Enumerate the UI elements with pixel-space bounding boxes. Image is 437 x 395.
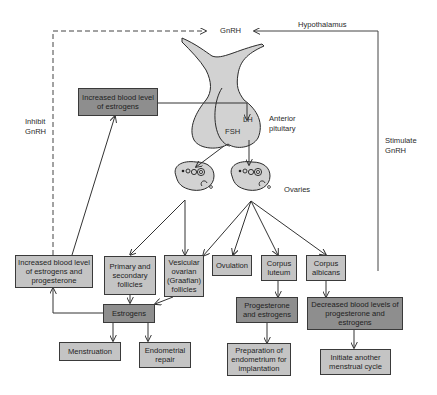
box-text: Increased blood level of estrogens and p… — [18, 258, 90, 285]
ovaries-label: Ovaries — [284, 185, 310, 194]
box-initiate-cycle: Initiate another menstrual cycle — [320, 349, 391, 375]
box-vesicular-follicles: Vesicular ovarian (Graafian) follicles — [164, 255, 204, 297]
pituitary-gland-icon — [182, 38, 264, 148]
box-decreased-levels: Decreased blood levels of progesterone a… — [307, 297, 403, 330]
inhibit-label-1: Inhibit — [25, 117, 45, 126]
box-increased-estrogens-progesterone: Increased blood level of estrogens and p… — [15, 255, 93, 288]
box-estrogens: Estrogens — [103, 304, 155, 323]
gnrh-label: GnRH — [220, 26, 241, 35]
box-text: Preparation of endometrium for implantat… — [230, 346, 288, 373]
box-text: Progesterone and estrogens — [239, 301, 295, 319]
box-corpus-albicans: Corpus albicans — [306, 255, 346, 281]
ovary-right-icon — [231, 162, 270, 191]
stimulate-label-2: GnRH — [385, 146, 406, 155]
box-menstruation: Menstruation — [59, 342, 121, 361]
diagram-wires — [0, 0, 437, 395]
box-ovulation: Ovulation — [212, 255, 252, 276]
box-increased-estrogens: Increased blood level of estrogens — [78, 88, 158, 116]
box-text: Corpus luteum — [264, 259, 294, 277]
fsh-label: FSH — [225, 127, 240, 136]
box-endometrial-repair: Endometrial repair — [139, 342, 191, 368]
box-text: Corpus albicans — [309, 259, 343, 277]
diagram-canvas: GnRH Hypothalamus Anterior pituitary LH … — [0, 0, 437, 395]
box-progesterone-estrogens: Progesterone and estrogens — [236, 297, 298, 323]
box-text: Decreased blood levels of progesterone a… — [310, 300, 400, 327]
box-text: Primary and secondary follicles — [107, 262, 153, 289]
box-text: Estrogens — [112, 309, 146, 318]
box-text: Increased blood level of estrogens — [81, 93, 155, 111]
anterior-pituitary-label-2: pituitary — [269, 124, 296, 133]
anterior-pituitary-label-1: Anterior — [269, 114, 296, 123]
stimulate-label-1: Stimulate — [385, 136, 417, 145]
box-text: Endometrial repair — [142, 346, 188, 364]
lh-label: LH — [243, 115, 253, 124]
hypothalamus-label: Hypothalamus — [298, 20, 347, 29]
inhibit-label-2: GnRH — [25, 127, 46, 136]
box-text: Vesicular ovarian (Graafian) follicles — [167, 258, 201, 294]
box-text: Menstruation — [68, 347, 112, 356]
box-corpus-luteum: Corpus luteum — [261, 255, 297, 281]
box-text: Ovulation — [216, 261, 248, 270]
box-preparation-endometrium: Preparation of endometrium for implantat… — [227, 343, 291, 376]
box-primary-secondary-follicles: Primary and secondary follicles — [104, 256, 156, 295]
box-text: Initiate another menstrual cycle — [323, 353, 388, 371]
ovary-left-icon — [175, 162, 214, 191]
